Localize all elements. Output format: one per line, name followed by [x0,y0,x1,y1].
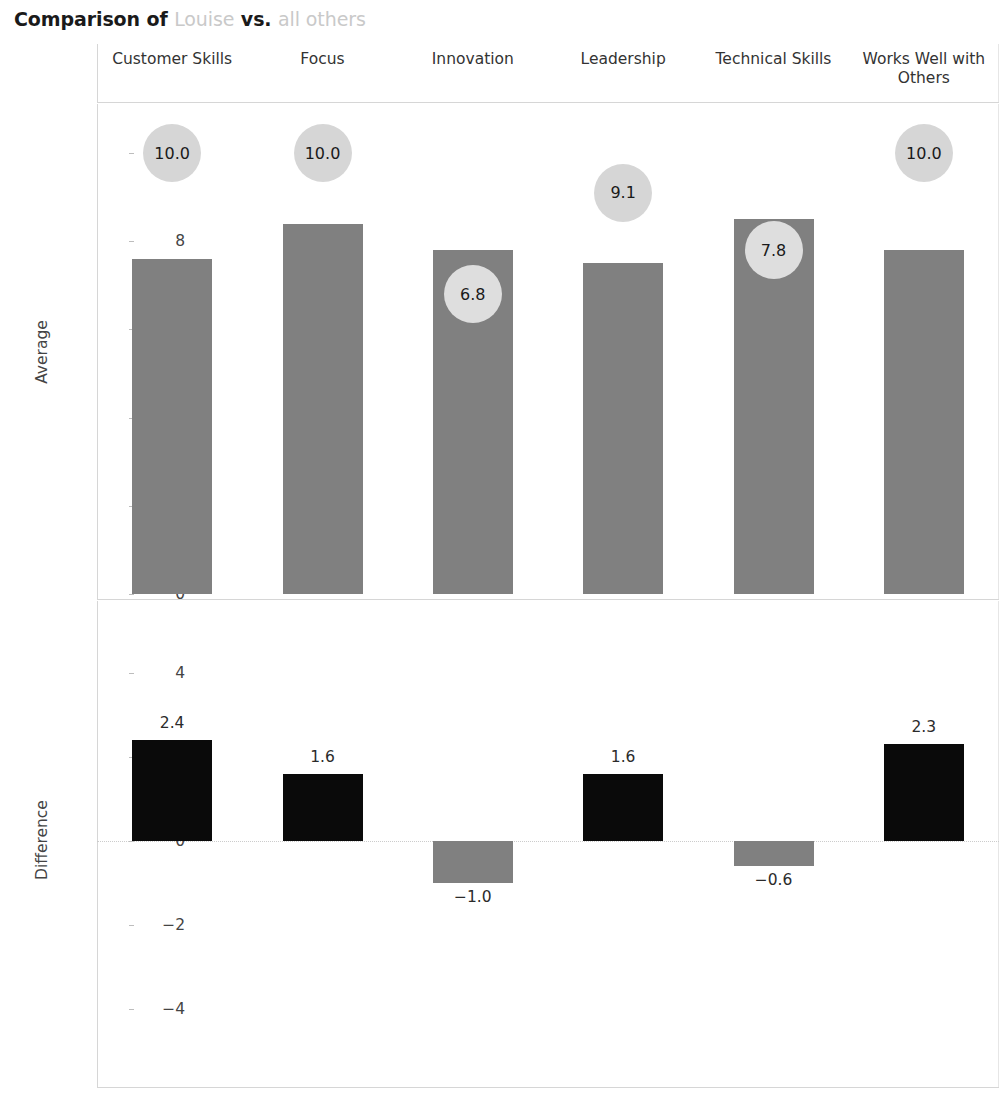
y-tick-label-0: −4 [134,1000,194,1018]
difference-bar-label-2: 1.6 [247,748,397,766]
panel-right-rule-average [998,104,999,599]
louise-bubble-6: 10.0 [895,124,953,182]
average-bar-1 [132,259,212,594]
louise-bubble-3: 6.8 [444,265,502,323]
column-header-2: Focus [247,50,397,69]
column-header-1: Customer Skills [97,50,247,69]
y-tick-label-4: 4 [134,664,194,682]
y-tick-label-4: 8 [134,232,194,250]
y-axis-spine-difference [97,601,98,1087]
difference-bar-label-6: 2.3 [849,718,999,736]
y-axis-spine-average [97,104,98,599]
difference-bar-2 [283,774,363,841]
column-header-6: Works Well with Others [849,50,999,88]
column-header-3: Innovation [398,50,548,69]
difference-bar-3 [433,841,513,883]
chart-page: Comparison of Louise vs. all others Cust… [0,0,1003,1107]
title-prefix: Comparison of [14,8,168,30]
panel-difference: −4−2024 2.41.6−1.01.6−0.62.3 [97,601,999,1088]
panel-right-rule-difference [998,601,999,1087]
difference-bar-4 [583,774,663,841]
title-subject: Louise [174,8,234,30]
difference-bar-6 [884,744,964,841]
louise-bubble-2: 10.0 [294,124,352,182]
title-middle: vs. [241,8,272,30]
average-bar-4 [583,263,663,594]
louise-bubble-5: 7.8 [745,221,803,279]
page-title: Comparison of Louise vs. all others [14,8,366,30]
column-header-band: Customer SkillsFocusInnovationLeadership… [97,44,999,103]
difference-bar-label-1: 2.4 [97,714,247,732]
y-tick-label-1: −2 [134,916,194,934]
column-header-4: Leadership [548,50,698,69]
zero-reference-line [97,841,999,842]
difference-bar-label-4: 1.6 [548,748,698,766]
difference-bar-label-3: −1.0 [398,888,548,906]
average-bar-2 [283,224,363,594]
louise-bubble-1: 10.0 [143,124,201,182]
panel-average: 0246810 10.010.06.89.17.810.0 [97,104,999,600]
y-axis-title-average: Average [33,317,51,387]
louise-bubble-4: 9.1 [594,164,652,222]
average-bar-6 [884,250,964,594]
difference-bar-5 [734,841,814,866]
difference-bar-1 [132,740,212,841]
difference-bar-label-5: −0.6 [698,871,848,889]
y-axis-title-difference: Difference [33,810,51,880]
title-comparison: all others [278,8,366,30]
column-header-5: Technical Skills [698,50,848,69]
